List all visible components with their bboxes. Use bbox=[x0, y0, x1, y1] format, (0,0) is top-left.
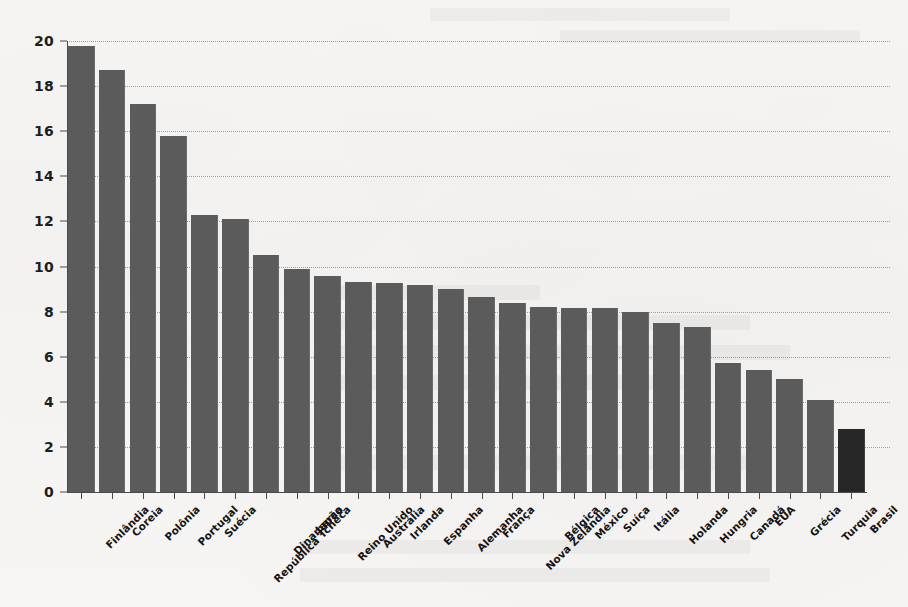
bar bbox=[561, 308, 588, 492]
bar-chart: 02468101214161820 FinlândiaCoreiaPolônia… bbox=[0, 0, 908, 607]
y-axis-tick-label: 8 bbox=[14, 304, 54, 320]
y-axis-tick-mark bbox=[60, 86, 67, 87]
x-axis-tick-mark bbox=[112, 492, 113, 499]
bar bbox=[530, 307, 557, 492]
bar bbox=[684, 327, 711, 492]
bar bbox=[345, 282, 372, 492]
x-axis-tick-mark bbox=[358, 492, 359, 499]
bar bbox=[653, 323, 680, 492]
y-axis-tick-mark bbox=[60, 131, 67, 132]
bar-series bbox=[67, 41, 890, 492]
bar bbox=[438, 289, 465, 492]
x-axis-tick-mark bbox=[851, 492, 852, 499]
x-axis-tick-mark bbox=[204, 492, 205, 499]
bar bbox=[407, 285, 434, 492]
bar bbox=[68, 46, 95, 492]
x-axis-tick-mark bbox=[574, 492, 575, 499]
y-axis-tick-label: 18 bbox=[14, 78, 54, 94]
bar bbox=[160, 136, 187, 492]
y-axis-tick-mark bbox=[60, 221, 67, 222]
x-axis-tick-mark bbox=[512, 492, 513, 499]
x-axis-line bbox=[67, 492, 867, 493]
bar bbox=[314, 276, 341, 492]
y-axis-tick-mark bbox=[60, 266, 67, 267]
y-axis-tick-label: 4 bbox=[14, 394, 54, 410]
bar bbox=[222, 219, 249, 492]
y-axis-tick-label: 12 bbox=[14, 213, 54, 229]
y-axis-tick-label: 20 bbox=[14, 33, 54, 49]
x-axis-category-label: Itália bbox=[651, 503, 681, 533]
x-axis-tick-mark bbox=[420, 492, 421, 499]
bar bbox=[468, 297, 495, 492]
bar bbox=[99, 70, 126, 492]
bar bbox=[191, 215, 218, 492]
bar bbox=[376, 283, 403, 492]
bar bbox=[284, 269, 311, 492]
bar bbox=[499, 303, 526, 492]
y-axis-tick-mark bbox=[60, 401, 67, 402]
y-axis-tick-label: 10 bbox=[14, 259, 54, 275]
x-axis-tick-mark bbox=[81, 492, 82, 499]
x-axis-tick-mark bbox=[820, 492, 821, 499]
x-axis-tick-mark bbox=[451, 492, 452, 499]
x-axis-tick-mark bbox=[666, 492, 667, 499]
x-axis-tick-mark bbox=[328, 492, 329, 499]
x-axis-tick-mark bbox=[636, 492, 637, 499]
x-axis-tick-mark bbox=[266, 492, 267, 499]
y-axis-tick-label: 14 bbox=[14, 168, 54, 184]
y-axis-tick-mark bbox=[60, 446, 67, 447]
x-axis-category-label: Reino Unido bbox=[355, 503, 415, 563]
bar bbox=[838, 429, 865, 492]
bar bbox=[622, 312, 649, 492]
x-axis-tick-mark bbox=[790, 492, 791, 499]
x-axis-tick-mark bbox=[605, 492, 606, 499]
x-axis-tick-mark bbox=[297, 492, 298, 499]
x-axis-tick-mark bbox=[174, 492, 175, 499]
bar bbox=[776, 379, 803, 492]
bar bbox=[746, 370, 773, 492]
x-axis-tick-mark bbox=[728, 492, 729, 499]
y-axis-tick-mark bbox=[60, 176, 67, 177]
y-axis-tick-label: 16 bbox=[14, 123, 54, 139]
bar bbox=[807, 400, 834, 492]
x-axis-tick-mark bbox=[143, 492, 144, 499]
x-axis-tick-mark bbox=[482, 492, 483, 499]
y-axis-tick-label: 0 bbox=[14, 484, 54, 500]
x-axis-tick-mark bbox=[697, 492, 698, 499]
x-axis-tick-mark bbox=[389, 492, 390, 499]
y-axis-tick-label: 2 bbox=[14, 439, 54, 455]
bar bbox=[715, 363, 742, 492]
bar bbox=[130, 104, 157, 492]
x-axis-tick-mark bbox=[543, 492, 544, 499]
x-axis-category-label: Grécia bbox=[807, 503, 843, 539]
x-axis-tick-mark bbox=[235, 492, 236, 499]
y-axis-tick-label: 6 bbox=[14, 349, 54, 365]
y-axis-tick-mark bbox=[60, 356, 67, 357]
y-axis-tick-mark bbox=[60, 492, 67, 493]
y-axis-tick-mark bbox=[60, 311, 67, 312]
x-axis-tick-mark bbox=[759, 492, 760, 499]
bar bbox=[592, 308, 619, 492]
y-axis-tick-mark bbox=[60, 41, 67, 42]
bar bbox=[253, 255, 280, 492]
